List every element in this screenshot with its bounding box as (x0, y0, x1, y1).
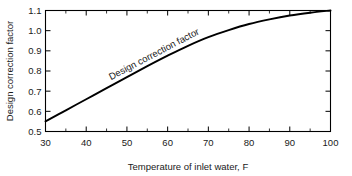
y-tick-label: 1.0 (28, 25, 41, 36)
design-correction-factor-chart: 30405060708090100 0.50.60.70.80.91.01.1 … (0, 0, 352, 176)
data-series-group (46, 11, 331, 122)
y-tick-label: 0.6 (28, 106, 41, 117)
x-axis-title: Temperature of inlet water, F (128, 161, 249, 172)
x-tick-label: 80 (244, 137, 255, 148)
x-tick-label: 60 (162, 137, 173, 148)
y-tick-label: 1.1 (28, 5, 41, 16)
x-tick-label: 30 (40, 137, 51, 148)
curve-inline-label: Design correction factor (107, 26, 201, 82)
x-tick-label: 90 (284, 137, 295, 148)
y-axis-title: Design correction factor (4, 21, 15, 121)
y-tick-label: 0.8 (28, 65, 41, 76)
y-tick-label: 0.9 (28, 45, 41, 56)
x-tick-label: 100 (323, 137, 339, 148)
y-tick-label: 0.5 (28, 126, 41, 137)
y-tick-label: 0.7 (28, 86, 41, 97)
design-correction-factor-curve (46, 11, 331, 122)
y-axis-tick-labels: 0.50.60.70.80.91.01.1 (28, 5, 41, 137)
chart-figure: 30405060708090100 0.50.60.70.80.91.01.1 … (0, 0, 352, 176)
x-tick-label: 40 (81, 137, 92, 148)
x-tick-label: 70 (203, 137, 214, 148)
x-tick-label: 50 (122, 137, 133, 148)
x-axis-tick-labels: 30405060708090100 (40, 137, 338, 148)
